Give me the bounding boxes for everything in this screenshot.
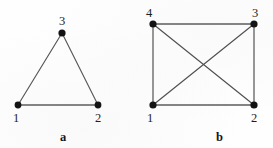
vertex-label-b-4: 4: [146, 7, 152, 20]
panel-b-edges: [153, 24, 254, 105]
vertex-label-a-2: 2: [95, 112, 101, 125]
panel-a-vertices: [15, 29, 102, 108]
vertex-label-b-2: 2: [251, 112, 257, 125]
vertex-b-2: [250, 101, 257, 108]
vertex-label-a-1: 1: [13, 112, 19, 125]
vertex-b-1: [149, 101, 156, 108]
panel-caption-b: b: [216, 131, 223, 144]
vertex-a-1: [15, 102, 22, 109]
vertex-a-3: [58, 29, 65, 36]
vertex-label-a-3: 3: [59, 15, 65, 28]
vertex-label-b-1: 1: [147, 112, 153, 125]
graph-figure: 1 2 3 a 4 3 1 2 b: [0, 0, 273, 148]
vertex-b-3: [250, 20, 257, 27]
vertex-label-b-3: 3: [252, 7, 258, 20]
panel-a-edges: [18, 33, 98, 105]
edge-a-1-3: [18, 33, 62, 105]
vertex-b-4: [149, 20, 156, 27]
graph-drawing-canvas: [0, 0, 273, 148]
panel-caption-a: a: [60, 131, 66, 144]
vertex-a-2: [95, 102, 102, 109]
edge-a-3-2: [62, 33, 98, 105]
